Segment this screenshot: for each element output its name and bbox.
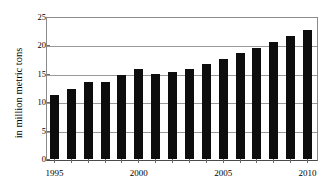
x-tick-mark — [189, 159, 190, 163]
gridline — [47, 46, 317, 47]
x-tick-mark — [88, 159, 89, 163]
y-tick-label: 15 — [16, 70, 46, 79]
x-tick-mark — [155, 159, 156, 163]
x-tick-label: 2005 — [214, 166, 232, 180]
x-tick-mark — [206, 159, 207, 163]
x-tick-mark — [138, 159, 139, 163]
x-tick-mark — [256, 159, 257, 163]
x-tick-mark — [223, 159, 224, 163]
bar-chart: in million metric tons 0510152025 199520… — [0, 0, 333, 192]
y-tick-label: 0 — [16, 155, 46, 164]
x-tick-mark — [273, 159, 274, 163]
gridline — [47, 103, 317, 104]
x-tick-mark — [121, 159, 122, 163]
x-tick-mark — [105, 159, 106, 163]
x-tick-label: 2010 — [299, 166, 317, 180]
y-tick-label: 25 — [16, 13, 46, 22]
plot-area — [46, 17, 318, 161]
x-axis-ticks — [46, 159, 316, 164]
y-tick-label: 20 — [16, 41, 46, 50]
x-axis-labels: 1995200020052010 — [46, 166, 316, 180]
gridline — [47, 75, 317, 76]
x-tick-label: 2000 — [130, 166, 148, 180]
x-tick-label: 1995 — [45, 166, 63, 180]
y-tick-label: 10 — [16, 98, 46, 107]
x-tick-mark — [71, 159, 72, 163]
x-tick-mark — [172, 159, 173, 163]
x-tick-mark — [290, 159, 291, 163]
y-axis-ticks: 0510152025 — [8, 17, 46, 159]
y-tick-label: 5 — [16, 126, 46, 135]
gridline — [47, 132, 317, 133]
x-tick-mark — [240, 159, 241, 163]
x-tick-mark — [54, 159, 55, 163]
x-tick-mark — [307, 159, 308, 163]
